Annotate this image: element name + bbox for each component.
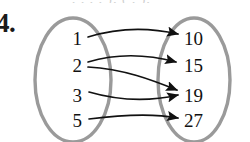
arrow-3-to-19 xyxy=(89,92,178,99)
range-value-27: 27 xyxy=(184,111,203,130)
domain-value-2: 2 xyxy=(60,56,82,75)
range-value-10: 10 xyxy=(184,29,203,48)
arrow-2-to-19 xyxy=(88,67,177,90)
range-value-15: 15 xyxy=(184,56,203,75)
mapping-diagram-screenshot: , , , , ), ( , ), 4. 1 2 3 5 xyxy=(0,0,250,142)
arrow-2-to-15 xyxy=(88,56,176,62)
range-value-19: 19 xyxy=(184,86,203,105)
domain-value-3: 3 xyxy=(60,86,82,105)
mapping-diagram-canvas xyxy=(0,0,250,142)
domain-value-1: 1 xyxy=(60,29,82,48)
domain-value-5: 5 xyxy=(60,111,82,130)
